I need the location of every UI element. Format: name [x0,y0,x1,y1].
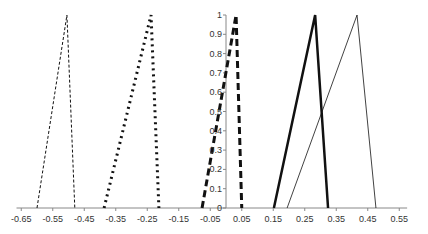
y-tick-label: 0.1 [209,184,222,194]
series-thin-dashed [37,15,75,208]
x-tick-label: 0.35 [327,214,345,224]
tick-labels: -0.65-0.55-0.45-0.35-0.25-0.15-0.050.050… [11,10,408,224]
chart: -0.65-0.55-0.45-0.35-0.25-0.15-0.050.050… [0,0,428,234]
y-tick-label: 0.7 [209,68,222,78]
y-tick-label: 0.3 [209,145,222,155]
series-group [37,15,376,208]
x-tick-label: 0.25 [296,214,314,224]
x-tick-label: -0.65 [11,214,32,224]
x-tick-label: 0.55 [390,214,408,224]
series-dotted [104,15,159,208]
x-tick-label: 0.05 [233,214,251,224]
y-tick-label: 0.2 [209,164,222,174]
y-tick-label: 0.9 [209,29,222,39]
x-tick-label: -0.25 [137,214,158,224]
x-tick-label: 0.15 [264,214,282,224]
y-tick-label: 0 [217,203,222,213]
x-tick-label: -0.05 [200,214,221,224]
x-tick-label: -0.15 [168,214,189,224]
y-tick-label: 0.5 [209,107,222,117]
series-thick-solid [274,15,328,208]
x-tick-label: -0.35 [105,214,126,224]
y-tick-label: 0.4 [209,126,222,136]
x-tick-label: -0.55 [42,214,63,224]
x-tick-label: -0.45 [74,214,95,224]
x-tick-label: 0.45 [359,214,377,224]
y-tick-label: 0.6 [209,87,222,97]
series-thin-solid [287,15,376,208]
y-tick-label: 0.8 [209,49,222,59]
y-tick-label: 1 [217,10,222,20]
